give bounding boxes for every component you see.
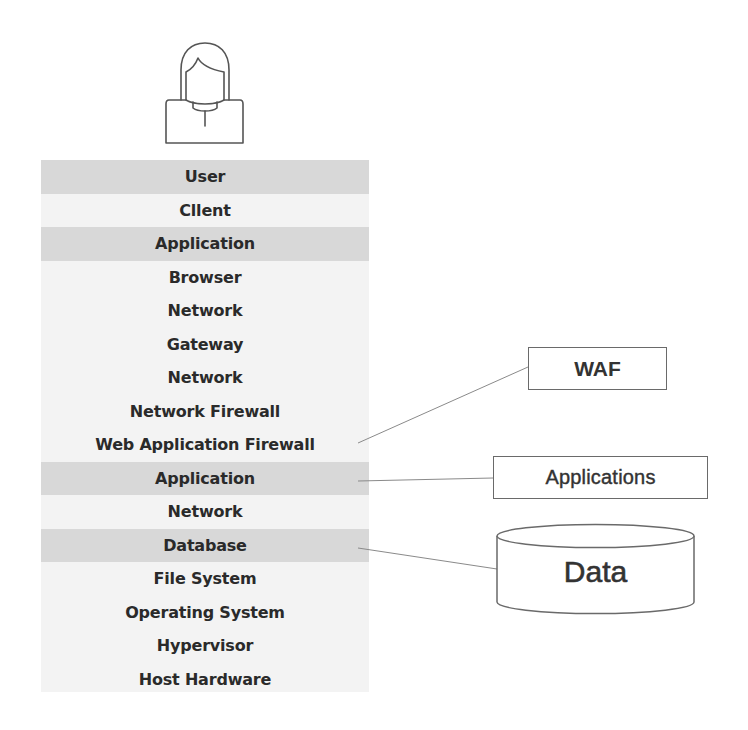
waf-label: WAF	[574, 357, 621, 381]
waf-box: WAF	[528, 347, 667, 390]
waf-connector-line	[358, 367, 528, 443]
applications-box: Applications	[493, 456, 708, 499]
data-connector-line	[358, 548, 497, 569]
applications-label: Applications	[545, 466, 655, 489]
applications-connector-line	[358, 478, 493, 481]
data-label: Data	[497, 555, 694, 589]
